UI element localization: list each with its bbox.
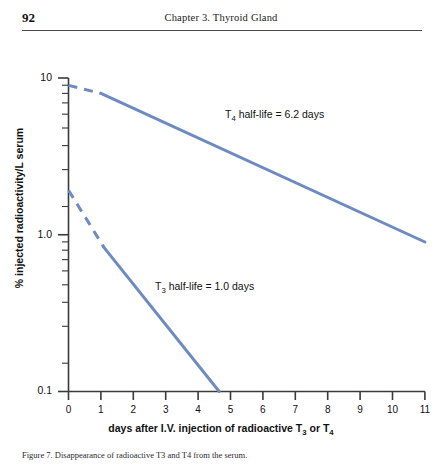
chart-svg <box>0 34 442 446</box>
y-tick-label-0.1: 0.1 <box>18 384 52 396</box>
y-axis-title: % injected radioactivity/L serum <box>13 103 25 313</box>
chapter-title: Chapter 3. Thyroid Gland <box>0 12 442 23</box>
y-tick-label-10: 10 <box>18 71 52 83</box>
x-tick-label-5: 5 <box>221 404 241 415</box>
x-axis-title: days after I.V. injection of radioactive… <box>0 422 442 437</box>
t3-solid-segment <box>104 248 219 392</box>
figure-decay-chart: 10 1.0 0.1 0 1 2 3 4 5 6 7 8 9 10 11 T4 … <box>0 34 442 446</box>
x-axis-title-sub-4: 4 <box>329 428 333 437</box>
page-header: 92 Chapter 3. Thyroid Gland <box>0 0 442 34</box>
annotation-t3-text: half-life = 1.0 days <box>166 280 254 292</box>
x-tick-label-2: 2 <box>123 404 143 415</box>
x-tick-label-10: 10 <box>383 404 403 415</box>
header-rule <box>22 30 422 31</box>
x-axis-title-part2: or T <box>307 422 330 434</box>
x-tick-label-6: 6 <box>253 404 273 415</box>
x-tick-label-1: 1 <box>91 404 111 415</box>
annotation-t4-text: half-life = 6.2 days <box>236 108 324 120</box>
x-tick-label-0: 0 <box>59 404 79 415</box>
x-tick-label-11: 11 <box>415 404 435 415</box>
x-tick-label-4: 4 <box>188 404 208 415</box>
x-tick-label-3: 3 <box>156 404 176 415</box>
x-tick-label-7: 7 <box>285 404 305 415</box>
figure-caption: Figure 7. Disappearance of radioactive T… <box>22 450 432 464</box>
y-major-ticks <box>58 78 69 392</box>
annotation-t4-half-life: T4 half-life = 6.2 days <box>225 108 324 123</box>
x-tick-label-9: 9 <box>350 404 370 415</box>
plot-area: 10 1.0 0.1 0 1 2 3 4 5 6 7 8 9 10 11 T4 … <box>0 34 442 446</box>
x-axis-title-part1: days after I.V. injection of radioactive… <box>108 422 302 434</box>
x-ticks <box>69 392 425 401</box>
annotation-t3-half-life: T3 half-life = 1.0 days <box>155 280 254 295</box>
t3-dashed-segment <box>69 190 105 247</box>
t4-dashed-segment <box>69 85 101 93</box>
x-tick-label-8: 8 <box>318 404 338 415</box>
y-minor-ticks <box>62 85 69 363</box>
